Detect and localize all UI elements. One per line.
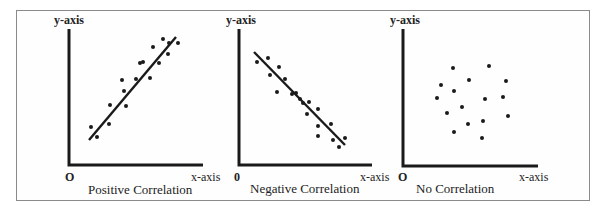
data-point bbox=[451, 66, 455, 70]
y-axis-label-positive: y-axis bbox=[54, 13, 84, 28]
data-point bbox=[481, 119, 485, 123]
data-point bbox=[268, 73, 272, 77]
data-point bbox=[329, 122, 333, 126]
data-point bbox=[275, 90, 279, 94]
x-axis-label-positive: x-axis bbox=[191, 170, 220, 185]
title-positive: Positive Correlation bbox=[88, 182, 192, 198]
data-point bbox=[467, 78, 471, 82]
data-point bbox=[343, 136, 347, 140]
data-point bbox=[460, 105, 464, 109]
origin-label-none: O bbox=[398, 170, 407, 185]
x-axis-label-negative: x-axis bbox=[360, 170, 389, 185]
data-point bbox=[161, 37, 165, 41]
origin-label-negative: 0 bbox=[234, 170, 240, 185]
data-point bbox=[122, 89, 126, 93]
data-point bbox=[452, 89, 456, 93]
data-point bbox=[89, 125, 93, 129]
data-point bbox=[316, 134, 320, 138]
data-point bbox=[435, 96, 439, 100]
title-negative: Negative Correlation bbox=[250, 181, 359, 197]
origin-label-positive: O bbox=[65, 170, 74, 185]
data-point bbox=[452, 130, 456, 134]
data-point bbox=[277, 65, 281, 69]
data-point bbox=[337, 145, 341, 149]
data-point bbox=[307, 100, 311, 104]
axes-negative bbox=[239, 29, 372, 165]
data-point bbox=[255, 60, 259, 64]
data-point bbox=[316, 124, 320, 128]
data-point bbox=[305, 112, 309, 116]
data-point bbox=[108, 103, 112, 107]
data-point bbox=[157, 61, 161, 65]
data-point bbox=[466, 122, 470, 126]
data-point bbox=[176, 41, 180, 45]
data-point bbox=[480, 136, 484, 140]
axes-positive bbox=[69, 29, 203, 165]
y-axis-label-negative: y-axis bbox=[226, 13, 256, 28]
data-point bbox=[148, 76, 152, 80]
data-point bbox=[445, 111, 449, 115]
data-point bbox=[141, 60, 145, 64]
data-point bbox=[167, 41, 171, 45]
data-point bbox=[134, 77, 138, 81]
data-point bbox=[301, 101, 305, 105]
data-point bbox=[294, 91, 298, 95]
data-point bbox=[107, 122, 111, 126]
data-point bbox=[316, 107, 320, 111]
data-point bbox=[283, 77, 287, 81]
data-point bbox=[439, 83, 443, 87]
data-point bbox=[95, 135, 99, 139]
data-point bbox=[151, 45, 155, 49]
data-point bbox=[166, 52, 170, 56]
axes-none bbox=[403, 29, 538, 166]
y-axis-label-none: y-axis bbox=[390, 13, 420, 28]
trendline-positive-correlation bbox=[89, 37, 176, 140]
data-point bbox=[506, 114, 510, 118]
title-none: No Correlation bbox=[416, 181, 494, 197]
data-point bbox=[298, 97, 302, 101]
data-point bbox=[124, 104, 128, 108]
data-point bbox=[483, 97, 487, 101]
data-point bbox=[120, 78, 124, 82]
x-axis-label-none: x-axis bbox=[519, 170, 548, 185]
data-point bbox=[487, 64, 491, 68]
data-point bbox=[331, 138, 335, 142]
data-point bbox=[501, 95, 505, 99]
axes bbox=[69, 29, 538, 166]
data-point bbox=[290, 92, 294, 96]
data-point bbox=[504, 79, 508, 83]
data-point bbox=[266, 56, 270, 60]
